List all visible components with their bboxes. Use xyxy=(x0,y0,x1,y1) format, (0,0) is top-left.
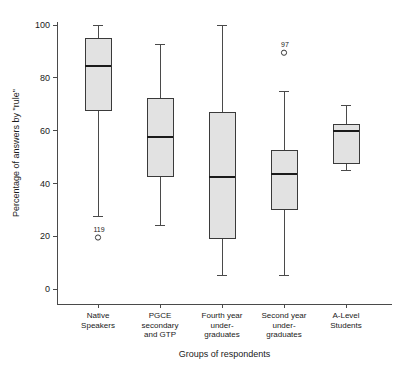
x-tick-label-line: Fourth year xyxy=(202,311,243,320)
x-tick-label-line: A-Level xyxy=(332,311,359,320)
box-body xyxy=(271,150,297,209)
x-axis-title: Groups of respondents xyxy=(179,349,271,359)
y-tick-label: 100 xyxy=(35,20,50,30)
outlier-label: 97 xyxy=(281,41,289,48)
x-tick-label-line: secondary xyxy=(142,321,179,330)
x-tick-label-line: Second year xyxy=(262,311,307,320)
y-axis-title: Percentage of answers by "rule" xyxy=(11,89,21,217)
x-tick-label-line: graduates xyxy=(266,330,302,339)
x-tick-label-line: PGCE xyxy=(149,311,172,320)
y-tick-label: 60 xyxy=(40,126,50,136)
x-tick-label: Fourth yearunder-graduates xyxy=(202,311,243,339)
x-tick-label: A-LevelStudents xyxy=(330,311,362,330)
x-tick-label: NativeSpeakers xyxy=(81,311,115,330)
x-tick-label-line: under- xyxy=(210,321,233,330)
outlier-label: 119 xyxy=(93,226,104,233)
x-tick-label: Second yearunder-graduates xyxy=(262,311,307,339)
box-body xyxy=(85,38,111,111)
y-tick-label: 80 xyxy=(40,73,50,83)
x-tick-label-line: and GTP xyxy=(144,330,176,339)
box-body xyxy=(209,112,235,239)
y-tick-label: 0 xyxy=(45,284,50,294)
boxplot-canvas: 020406080100Percentage of answers by "ru… xyxy=(0,0,399,370)
outlier-point xyxy=(281,50,286,55)
x-tick-label-line: Native xyxy=(87,311,110,320)
y-tick-label: 40 xyxy=(40,179,50,189)
x-tick-label-line: Speakers xyxy=(81,321,115,330)
outlier-point xyxy=(95,235,100,240)
x-tick-label-line: Students xyxy=(330,321,362,330)
x-tick-label-line: graduates xyxy=(204,330,240,339)
x-tick-label-line: under- xyxy=(272,321,295,330)
y-tick-label: 20 xyxy=(40,231,50,241)
boxplot-figure: 020406080100Percentage of answers by "ru… xyxy=(0,0,399,370)
x-tick-label: PGCEsecondaryand GTP xyxy=(142,311,179,339)
